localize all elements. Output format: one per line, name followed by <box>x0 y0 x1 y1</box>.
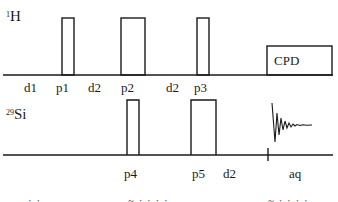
pulse-p5 <box>191 100 216 155</box>
label-p1: p1 <box>56 81 69 95</box>
h-symbol: H <box>10 8 21 24</box>
fid-signal-icon <box>272 103 312 142</box>
cutoff-text-fragment: ~ · · · · <box>128 194 169 202</box>
h-isotope-number: 1 <box>6 10 10 19</box>
pulse-p2 <box>121 18 145 75</box>
si-isotope-number: 29 <box>6 108 14 117</box>
label-p3: p3 <box>194 81 207 95</box>
pulse-p3 <box>197 18 209 75</box>
h-channel-label: 1H <box>6 8 21 24</box>
label-aq: aq <box>289 167 301 181</box>
si-channel-label: 29Si <box>6 106 27 122</box>
label-p5: p5 <box>192 167 205 181</box>
label-p4: p4 <box>124 167 137 181</box>
label-d2-si: d2 <box>223 167 236 181</box>
si-symbol: Si <box>14 106 27 122</box>
pulse-p4 <box>127 100 139 155</box>
label-d2-second: d2 <box>166 81 179 95</box>
label-p2: p2 <box>121 81 134 95</box>
label-d2: d2 <box>88 81 101 95</box>
cutoff-text-fragment: · · <box>28 194 41 202</box>
pulse-p1 <box>62 18 74 75</box>
cutoff-text-fragment: ~ · · · · <box>268 194 309 202</box>
label-d1: d1 <box>24 81 37 95</box>
cpd-label: CPD <box>274 54 299 68</box>
pulse-sequence-diagram <box>0 0 338 202</box>
